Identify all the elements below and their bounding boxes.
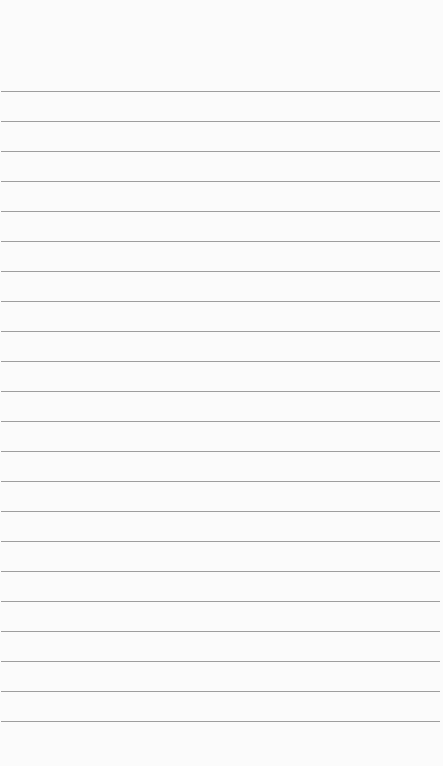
ruled-line: [1, 91, 440, 92]
ruled-line: [1, 601, 440, 602]
ruled-line: [1, 151, 440, 152]
ruled-line: [1, 541, 440, 542]
writing-lines[interactable]: [0, 0, 443, 766]
ruled-line: [1, 571, 440, 572]
ruled-line: [1, 271, 440, 272]
ruled-line: [1, 181, 440, 182]
lined-notepad-page[interactable]: [0, 0, 443, 766]
ruled-line: [1, 241, 440, 242]
ruled-line: [1, 391, 440, 392]
ruled-line: [1, 721, 440, 722]
ruled-line: [1, 481, 440, 482]
ruled-line: [1, 451, 440, 452]
ruled-line: [1, 691, 440, 692]
ruled-line: [1, 211, 440, 212]
ruled-line: [1, 421, 440, 422]
ruled-line: [1, 301, 440, 302]
ruled-line: [1, 121, 440, 122]
ruled-line: [1, 661, 440, 662]
ruled-line: [1, 331, 440, 332]
ruled-line: [1, 361, 440, 362]
ruled-line: [1, 511, 440, 512]
ruled-line: [1, 631, 440, 632]
